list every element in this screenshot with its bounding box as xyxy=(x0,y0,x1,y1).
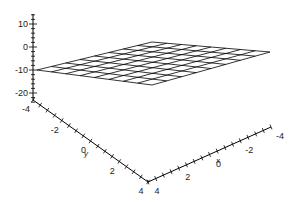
y-tick xyxy=(89,139,92,143)
y-axis-label: y xyxy=(83,149,89,158)
axes: 100-10-20 -4-2024 420-2-4 y x xyxy=(15,14,284,196)
x-tick-label: -2 xyxy=(245,145,253,155)
y-tick xyxy=(118,159,121,163)
y-tick xyxy=(132,170,135,174)
y-tick xyxy=(53,113,56,117)
x-tick-label: 4 xyxy=(154,186,159,196)
y-tick xyxy=(60,118,63,122)
y-tick xyxy=(96,144,99,148)
y-tick xyxy=(111,154,114,158)
z-tick-label: -10 xyxy=(15,65,28,75)
y-tick-label: 4 xyxy=(138,186,143,196)
y-tick xyxy=(67,123,70,127)
y-axis-ticks: -4-2024 xyxy=(22,98,150,196)
y-tick xyxy=(46,108,49,112)
y-tick xyxy=(75,129,78,133)
z-tick-label: 10 xyxy=(18,19,28,29)
z-axis-ticks: 100-10-20 xyxy=(15,15,37,102)
y-tick xyxy=(39,103,42,107)
surface-plot-3d: 100-10-20 -4-2024 420-2-4 y x xyxy=(0,0,294,202)
surface-mesh xyxy=(37,42,270,85)
z-tick-label: 0 xyxy=(23,42,28,52)
y-tick-label: 2 xyxy=(110,166,115,176)
y-tick xyxy=(103,149,106,153)
x-tick-label: 2 xyxy=(185,172,190,182)
y-tick xyxy=(82,134,85,138)
x-tick-label: -4 xyxy=(276,131,284,141)
y-tick xyxy=(139,175,142,179)
y-tick-label: -4 xyxy=(22,104,30,114)
z-tick-label: -20 xyxy=(15,88,28,98)
y-tick-label: -2 xyxy=(51,125,59,135)
y-tick xyxy=(125,164,128,168)
